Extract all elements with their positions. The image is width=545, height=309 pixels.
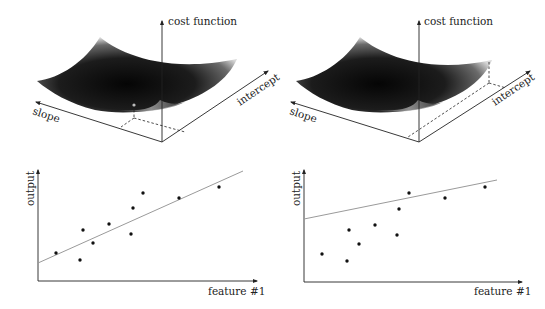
- minimum-dot: [132, 103, 135, 106]
- data-point: [345, 259, 348, 262]
- cost-axis-label: cost function: [424, 15, 493, 27]
- data-point: [54, 251, 57, 254]
- data-point: [407, 191, 410, 194]
- data-point: [81, 228, 84, 231]
- cost-surface-right: cost function slope intercept: [288, 15, 537, 142]
- data-point: [373, 223, 376, 226]
- x-axis-label: feature #1: [474, 285, 531, 297]
- surface-shape: [37, 37, 237, 112]
- data-point: [395, 233, 398, 236]
- y-axis-label: output: [24, 170, 36, 206]
- cost-axis-label: cost function: [168, 15, 237, 27]
- slope-axis-label: slope: [288, 104, 318, 124]
- scatter-plot-left: output feature #1: [24, 170, 265, 297]
- fit-line: [38, 171, 243, 263]
- data-point: [129, 232, 132, 235]
- data-points: [320, 185, 486, 262]
- surface-shape: [296, 37, 492, 112]
- data-point: [397, 207, 400, 210]
- fit-line: [304, 180, 497, 219]
- x-axis-label: feature #1: [208, 285, 265, 297]
- y-axis-label: output: [290, 170, 302, 206]
- data-point: [177, 196, 180, 199]
- data-point: [141, 191, 144, 194]
- slope-axis-label: slope: [31, 104, 61, 124]
- data-point: [443, 196, 446, 199]
- projection-dashes: [121, 110, 185, 132]
- data-point: [131, 206, 134, 209]
- intercept-axis-label: intercept: [489, 70, 537, 108]
- data-points: [54, 185, 220, 261]
- cost-surface-left: cost function slope intercept: [31, 15, 282, 142]
- data-point: [483, 185, 486, 188]
- data-point: [357, 242, 360, 245]
- data-point: [217, 185, 220, 188]
- data-point: [107, 222, 110, 225]
- figure: cost function slope intercept cost funct…: [0, 0, 545, 309]
- data-point: [347, 228, 350, 231]
- data-point: [320, 252, 323, 255]
- data-point: [78, 258, 81, 261]
- scatter-plot-right: output feature #1: [290, 170, 531, 297]
- data-point: [91, 241, 94, 244]
